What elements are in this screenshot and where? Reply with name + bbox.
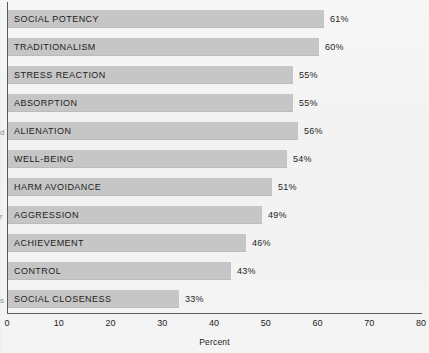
x-tick-label: 70 — [364, 318, 374, 328]
bar-category-label: SOCIAL CLOSENESS — [14, 290, 111, 308]
bar-category-label: SOCIAL POTENCY — [14, 10, 99, 28]
bar-category-label: ALIENATION — [14, 122, 71, 140]
bar-row[interactable]: TRADITIONALISM60% — [8, 38, 422, 56]
bar-row[interactable]: WELL-BEING54% — [8, 150, 422, 168]
bar-value-label: 55% — [299, 94, 318, 112]
bar-value-label: 51% — [278, 178, 297, 196]
bar-row[interactable]: SOCIAL CLOSENESS33% — [8, 290, 422, 308]
bar-row[interactable]: ABSORPTION55% — [8, 94, 422, 112]
chart-root: SOCIAL POTENCY61%TRADITIONALISM60%STRESS… — [0, 0, 429, 353]
bar-value-label: 49% — [268, 206, 287, 224]
x-tick-label: 80 — [416, 318, 426, 328]
bar-category-label: ABSORPTION — [14, 94, 78, 112]
bar-value-label: 33% — [185, 290, 204, 308]
bar-value-label: 43% — [237, 262, 256, 280]
x-tick-label: 30 — [157, 318, 167, 328]
bar-row[interactable]: AGGRESSION49% — [8, 206, 422, 224]
bar-row[interactable]: STRESS REACTION55% — [8, 66, 422, 84]
bar-value-label: 54% — [293, 150, 312, 168]
x-tick-label: 20 — [105, 318, 115, 328]
bar-row[interactable]: ACHIEVEMENT46% — [8, 234, 422, 252]
x-tick-label: 60 — [312, 318, 322, 328]
cropped-margin-glyph: r — [0, 212, 6, 221]
bar-value-label: 55% — [299, 66, 318, 84]
bar-row[interactable]: SOCIAL POTENCY61% — [8, 10, 422, 28]
x-tick-label: 10 — [54, 318, 64, 328]
cropped-margin-glyph: s — [0, 296, 6, 305]
bar-row[interactable]: ALIENATION56% — [8, 122, 422, 140]
bar-value-label: 60% — [325, 38, 344, 56]
x-axis-title: Percent — [0, 337, 429, 347]
bar-category-label: CONTROL — [14, 262, 61, 280]
x-tick-label: 50 — [261, 318, 271, 328]
bar-row[interactable]: HARM AVOIDANCE51% — [8, 178, 422, 196]
bar-row[interactable]: CONTROL43% — [8, 262, 422, 280]
bar-category-label: TRADITIONALISM — [14, 38, 96, 56]
bar-category-label: HARM AVOIDANCE — [14, 178, 101, 196]
bar-category-label: ACHIEVEMENT — [14, 234, 84, 252]
cropped-margin-glyph: d — [0, 128, 6, 137]
bar-value-label: 56% — [304, 122, 323, 140]
x-tick-label: 0 — [4, 318, 9, 328]
bar-category-label: STRESS REACTION — [14, 66, 106, 84]
bar-category-label: WELL-BEING — [14, 150, 74, 168]
x-axis-line — [7, 313, 422, 314]
bar-chart-plot-area: SOCIAL POTENCY61%TRADITIONALISM60%STRESS… — [0, 0, 429, 353]
bar-category-label: AGGRESSION — [14, 206, 79, 224]
x-tick-label: 40 — [209, 318, 219, 328]
bar-value-label: 61% — [330, 10, 349, 28]
bar-value-label: 46% — [252, 234, 271, 252]
